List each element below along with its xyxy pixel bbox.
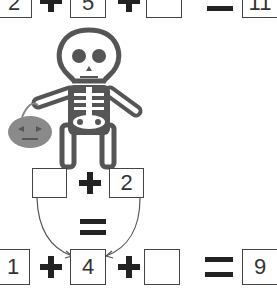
plus-icon	[79, 172, 101, 194]
equals-icon-partial	[207, 6, 233, 11]
bottom-box-a: 1	[0, 249, 30, 285]
skeleton-illustration	[0, 25, 160, 175]
bottom-box-c-empty[interactable]	[144, 249, 180, 285]
plus-icon	[40, 0, 62, 12]
plus-icon	[40, 256, 62, 278]
top-result-box: 11	[242, 0, 277, 18]
plus-icon	[118, 256, 140, 278]
top-box-c-empty[interactable]	[146, 0, 182, 18]
middle-box-a-empty[interactable]	[32, 168, 67, 198]
plus-icon	[118, 0, 140, 12]
top-box-a: 2	[0, 0, 32, 18]
top-box-b: 5	[70, 0, 106, 18]
bottom-box-b: 4	[70, 249, 106, 285]
bottom-result-box: 9	[242, 249, 277, 285]
middle-box-b: 2	[109, 168, 144, 198]
equals-icon	[205, 257, 233, 277]
